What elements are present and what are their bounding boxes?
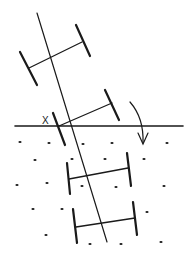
soil-dot [110,142,113,144]
soil-dot [165,142,168,144]
rung-0-left-bar [20,52,37,85]
soil-dot [45,182,48,184]
soil-dot [162,185,165,187]
soil-dot [70,158,73,160]
soil-dot [103,158,106,160]
rung-3-left-bar [73,209,77,243]
soil-dot [44,234,47,236]
rung-2-right-bar [127,153,131,186]
soil-dot [31,208,34,210]
rung-1-crossbar [59,103,112,126]
rung-2-crossbar [69,168,128,179]
rung-3-crossbar [76,218,135,227]
ladder-structure [15,13,183,243]
soil-dot [80,185,83,187]
rotation-arrow-curve [130,102,143,143]
soil-dot [15,184,18,186]
soil-dot [47,142,50,144]
soil-dot [119,243,122,245]
soil-dot [145,211,148,213]
soil-dot [81,143,84,145]
soil-dot [142,158,145,160]
rung-1-left-bar [53,113,65,145]
soil-dot [33,159,36,161]
diagram-canvas [0,0,195,259]
soil-dot [60,208,63,210]
rung-0-crossbar [29,42,82,68]
soil-dot [18,141,21,143]
pivot-label-x: X [42,115,49,126]
soil-dot [88,243,91,245]
soil-dot [114,186,117,188]
rung-0-right-bar [76,25,90,56]
soil-dot [159,241,162,243]
